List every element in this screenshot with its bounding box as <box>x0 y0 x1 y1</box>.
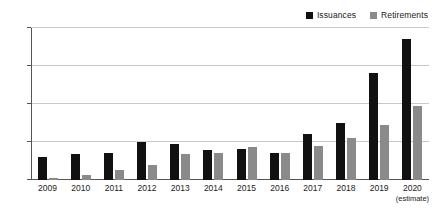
bar-group-2011 <box>97 28 130 180</box>
x-label-cell-2013: 2013 <box>164 183 197 204</box>
legend-swatch-icon <box>370 12 377 19</box>
x-label-year: 2018 <box>329 183 362 194</box>
x-label-year: 2015 <box>230 183 263 194</box>
x-label-year: 2020 <box>396 183 429 194</box>
plot-area: 050100150200 <box>31 28 429 180</box>
x-label-year: 2011 <box>97 183 130 194</box>
bar-issuances-2010[interactable] <box>71 154 80 180</box>
bar-issuances-2014[interactable] <box>203 150 212 180</box>
bar-issuances-2015[interactable] <box>237 149 246 180</box>
x-axis-labels: 2009201020112012201320142015201620172018… <box>31 183 429 204</box>
bar-issuances-2017[interactable] <box>303 134 312 180</box>
bar-retirements-2014[interactable] <box>214 153 223 180</box>
bar-group-2014 <box>197 28 230 180</box>
legend-label: Retirements <box>381 11 428 20</box>
bar-chart: IssuancesRetirements 050100150200 200920… <box>0 0 434 218</box>
bar-retirements-2012[interactable] <box>148 165 157 180</box>
bar-retirements-2020[interactable] <box>413 106 422 180</box>
x-label-cell-2011: 2011 <box>97 183 130 204</box>
bar-retirements-2018[interactable] <box>347 138 356 180</box>
legend-entry-issuances[interactable]: Issuances <box>306 11 356 20</box>
bar-issuances-2018[interactable] <box>336 123 345 180</box>
bar-issuances-2012[interactable] <box>137 142 146 180</box>
bar-issuances-2013[interactable] <box>170 144 179 180</box>
bar-group-2017 <box>296 28 329 180</box>
x-label-cell-2020: 2020(estimate) <box>396 183 429 204</box>
bar-issuances-2019[interactable] <box>369 73 378 180</box>
x-label-year: 2009 <box>31 183 64 194</box>
x-label-year: 2017 <box>296 183 329 194</box>
legend-label: Issuances <box>317 11 356 20</box>
legend-swatch-icon <box>306 12 313 19</box>
bar-group-2016 <box>263 28 296 180</box>
x-label-cell-2010: 2010 <box>64 183 97 204</box>
bar-retirements-2011[interactable] <box>115 170 124 180</box>
bar-retirements-2019[interactable] <box>380 125 389 180</box>
bar-group-2020 <box>396 28 429 180</box>
x-label-year: 2012 <box>130 183 163 194</box>
bar-group-2012 <box>131 28 164 180</box>
bar-group-2013 <box>164 28 197 180</box>
bar-group-2019 <box>363 28 396 180</box>
x-label-cell-2012: 2012 <box>130 183 163 204</box>
bar-issuances-2009[interactable] <box>38 157 47 180</box>
bar-group-2018 <box>330 28 363 180</box>
chart-legend: IssuancesRetirements <box>306 8 428 22</box>
bar-retirements-2010[interactable] <box>82 175 91 180</box>
bar-issuances-2020[interactable] <box>402 39 411 180</box>
x-label-year: 2010 <box>64 183 97 194</box>
bar-retirements-2015[interactable] <box>248 147 257 180</box>
bar-group-2009 <box>31 28 64 180</box>
x-label-year: 2019 <box>363 183 396 194</box>
x-label-cell-2018: 2018 <box>329 183 362 204</box>
x-label-note: (estimate) <box>396 194 429 204</box>
x-label-year: 2014 <box>197 183 230 194</box>
x-label-cell-2014: 2014 <box>197 183 230 204</box>
x-label-year: 2016 <box>263 183 296 194</box>
legend-entry-retirements[interactable]: Retirements <box>370 11 428 20</box>
bar-retirements-2009[interactable] <box>49 178 58 180</box>
x-label-cell-2019: 2019 <box>363 183 396 204</box>
x-label-cell-2009: 2009 <box>31 183 64 204</box>
bar-retirements-2013[interactable] <box>181 154 190 180</box>
bar-group-2010 <box>64 28 97 180</box>
x-label-cell-2017: 2017 <box>296 183 329 204</box>
x-label-cell-2016: 2016 <box>263 183 296 204</box>
x-label-year: 2013 <box>164 183 197 194</box>
bar-group-2015 <box>230 28 263 180</box>
bar-issuances-2016[interactable] <box>270 153 279 180</box>
bar-retirements-2016[interactable] <box>281 153 290 180</box>
bar-groups <box>31 28 429 180</box>
x-label-cell-2015: 2015 <box>230 183 263 204</box>
bar-retirements-2017[interactable] <box>314 146 323 180</box>
bar-issuances-2011[interactable] <box>104 153 113 180</box>
